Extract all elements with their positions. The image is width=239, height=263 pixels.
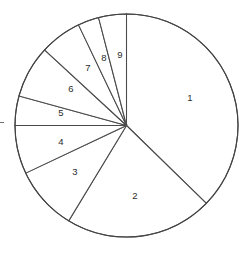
pie-slice-label-1: 1 (187, 92, 192, 103)
pie-slice-label-6: 6 (68, 83, 73, 94)
pie-slice-label-4: 4 (58, 136, 63, 147)
pie-slice-label-2: 2 (132, 190, 137, 201)
pie-chart-svg: 123456789 (0, 0, 239, 263)
pie-slice-label-7: 7 (85, 62, 90, 73)
pie-slice-label-3: 3 (72, 166, 77, 177)
left-edge-artifact-mark (0, 122, 4, 123)
pie-slice-label-9: 9 (117, 49, 122, 60)
pie-slices-group (15, 14, 238, 237)
pie-slice-label-8: 8 (101, 52, 106, 63)
pie-slice-label-5: 5 (58, 107, 63, 118)
pie-chart-figure: 123456789 (0, 0, 239, 263)
